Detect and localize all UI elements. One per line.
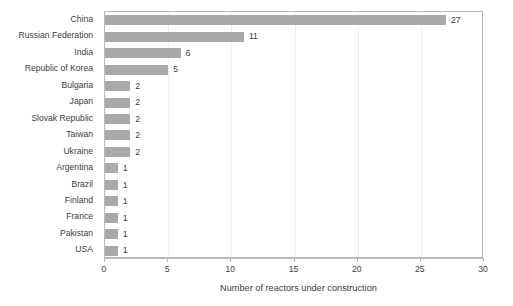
x-axis-tick-label: 20 bbox=[352, 264, 362, 274]
x-axis-tick-label: 0 bbox=[102, 264, 107, 274]
bar bbox=[105, 81, 130, 91]
bar bbox=[105, 114, 130, 124]
bar bbox=[105, 246, 118, 256]
category-label: Slovak Republic bbox=[0, 110, 98, 126]
bar-row: 2 bbox=[105, 94, 482, 110]
x-axis-tick bbox=[420, 258, 421, 262]
bar-value-label: 1 bbox=[123, 197, 128, 206]
bar-value-label: 2 bbox=[135, 148, 140, 157]
bar-row: 27 bbox=[105, 12, 482, 28]
bar-row: 1 bbox=[105, 226, 482, 242]
bar-row: 1 bbox=[105, 210, 482, 226]
x-axis-tick bbox=[483, 258, 484, 262]
category-label: Russian Federation bbox=[0, 27, 98, 43]
bar-row: 2 bbox=[105, 144, 482, 160]
bar bbox=[105, 98, 130, 108]
category-label: Pakistan bbox=[0, 225, 98, 241]
bar-value-label: 2 bbox=[135, 131, 140, 140]
bar-row: 1 bbox=[105, 160, 482, 176]
bar bbox=[105, 196, 118, 206]
category-label: USA bbox=[0, 241, 98, 257]
category-axis-labels: ChinaRussian FederationIndiaRepublic of … bbox=[0, 11, 98, 258]
bar-value-label: 11 bbox=[249, 32, 258, 41]
bar-value-label: 1 bbox=[123, 230, 128, 239]
bar bbox=[105, 65, 168, 75]
category-label: India bbox=[0, 44, 98, 60]
x-axis-tick-label: 25 bbox=[415, 264, 425, 274]
category-label: Brazil bbox=[0, 176, 98, 192]
x-axis-tick bbox=[167, 258, 168, 262]
bar bbox=[105, 48, 181, 58]
category-label: France bbox=[0, 208, 98, 224]
category-label: Bulgaria bbox=[0, 77, 98, 93]
category-label: Republic of Korea bbox=[0, 60, 98, 76]
category-label: Ukraine bbox=[0, 143, 98, 159]
bar bbox=[105, 130, 130, 140]
x-axis-tick-label: 5 bbox=[165, 264, 170, 274]
x-axis-tick bbox=[357, 258, 358, 262]
bar bbox=[105, 147, 130, 157]
category-label: China bbox=[0, 11, 98, 27]
bar bbox=[105, 180, 118, 190]
bar-value-label: 1 bbox=[123, 181, 128, 190]
bar-row: 1 bbox=[105, 243, 482, 258]
bar bbox=[105, 163, 118, 173]
x-axis-title-text: Number of reactors under construction bbox=[220, 283, 377, 293]
x-axis-tick-label: 15 bbox=[289, 264, 299, 274]
bar-value-label: 2 bbox=[135, 98, 140, 107]
x-axis-tick bbox=[294, 258, 295, 262]
bar-row: 2 bbox=[105, 127, 482, 143]
bar-row: 11 bbox=[105, 28, 482, 44]
bar-row: 6 bbox=[105, 45, 482, 61]
x-axis-tick bbox=[230, 258, 231, 262]
plot-area: 27116522222111111 bbox=[104, 11, 483, 258]
bar-row: 2 bbox=[105, 78, 482, 94]
bar bbox=[105, 32, 244, 42]
category-label: Finland bbox=[0, 192, 98, 208]
bars-layer: 27116522222111111 bbox=[105, 12, 482, 257]
x-axis-tick bbox=[104, 258, 105, 262]
bar-value-label: 27 bbox=[451, 16, 461, 25]
bar-value-label: 1 bbox=[123, 214, 128, 223]
bar-value-label: 6 bbox=[186, 49, 191, 58]
bar-value-label: 1 bbox=[123, 246, 128, 255]
category-label: Argentina bbox=[0, 159, 98, 175]
bar-chart: ChinaRussian FederationIndiaRepublic of … bbox=[0, 0, 513, 306]
bar bbox=[105, 213, 118, 223]
bar-value-label: 2 bbox=[135, 82, 140, 91]
x-axis-tick-label: 10 bbox=[226, 264, 236, 274]
bar-row: 2 bbox=[105, 111, 482, 127]
x-axis-tick-label: 30 bbox=[478, 264, 488, 274]
bar-row: 1 bbox=[105, 177, 482, 193]
x-axis-title: Number of reactors under construction bbox=[0, 283, 513, 293]
bar-value-label: 2 bbox=[135, 115, 140, 124]
category-label: Japan bbox=[0, 93, 98, 109]
category-label: Taiwan bbox=[0, 126, 98, 142]
bar bbox=[105, 15, 446, 25]
bar-value-label: 1 bbox=[123, 164, 128, 173]
bar bbox=[105, 229, 118, 239]
bar-row: 5 bbox=[105, 61, 482, 77]
bar-value-label: 5 bbox=[173, 65, 178, 74]
bar-row: 1 bbox=[105, 193, 482, 209]
